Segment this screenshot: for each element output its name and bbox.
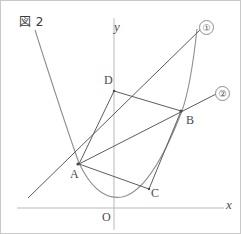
line-1 [28,26,204,198]
geometry-canvas [1,1,241,234]
line-2-circled-label: ② [215,86,230,101]
figure-caption: 図 2 [19,12,44,29]
figure-panel: 図 2 y x A B C D O ① ② [0,0,241,234]
point-D-marker [113,90,115,92]
point-A-marker [76,162,79,165]
point-label-b: B [186,113,194,128]
point-label-d: D [104,73,113,88]
origin-label: O [102,210,111,225]
segment-CB [149,111,181,189]
point-C-marker [148,188,150,190]
y-axis-label: y [114,19,120,35]
point-label-a: A [70,167,79,182]
parabola-curve [35,29,197,197]
segment-DB [114,91,181,111]
line-1-circled-label: ① [199,20,214,35]
point-label-c: C [151,186,159,201]
point-B-marker [179,109,182,112]
segment-AD [79,91,114,164]
x-axis-label: x [226,197,232,213]
